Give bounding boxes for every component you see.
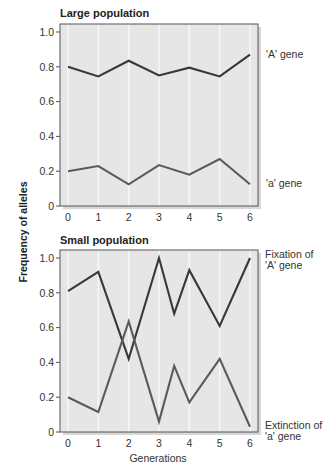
x-tick-label: 4 — [186, 211, 192, 223]
x-tick-label: 2 — [126, 437, 132, 449]
y-axis-label: Frequency of alleles — [17, 181, 29, 282]
y-tick-label: 1.0 — [39, 252, 54, 264]
x-tick-label: 0 — [65, 211, 71, 223]
y-tick-label: 0 — [48, 426, 54, 438]
x-tick-label: 6 — [247, 437, 253, 449]
x-tick-label: 3 — [156, 437, 162, 449]
x-tick-label: 1 — [95, 437, 101, 449]
chart-title: Small population — [60, 234, 149, 246]
y-tick-label: 0.8 — [39, 287, 54, 299]
label-A-gene-large: 'A' gene — [266, 48, 303, 60]
label-a-gene-large: 'a' gene — [266, 177, 302, 189]
y-tick-label: 0.4 — [39, 130, 54, 142]
x-tick-label: 3 — [156, 211, 162, 223]
x-tick-label: 0 — [65, 437, 71, 449]
y-tick-label: 0.2 — [39, 391, 54, 403]
x-tick-label: 6 — [247, 211, 253, 223]
x-tick-label: 5 — [217, 211, 223, 223]
x-axis-label: Generations — [129, 452, 186, 464]
y-tick-label: 0.2 — [39, 165, 54, 177]
y-tick-label: 0.6 — [39, 321, 54, 333]
y-tick-label: 0.4 — [39, 356, 54, 368]
y-tick-label: 1.0 — [39, 26, 54, 38]
chart-large-population: Large population00.20.40.60.81.00123456 — [39, 7, 261, 223]
label-extinction-a-line2: 'a' gene — [265, 430, 301, 442]
x-tick-label: 4 — [186, 437, 192, 449]
y-tick-label: 0 — [48, 200, 54, 212]
chart-small-population: Small population00.20.40.60.81.00123456 — [39, 234, 261, 449]
label-fixation-A-line2: 'A' gene — [265, 259, 302, 271]
y-tick-label: 0.6 — [39, 95, 54, 107]
allele-frequency-figure: Large population00.20.40.60.81.00123456S… — [0, 0, 327, 470]
x-tick-label: 2 — [126, 211, 132, 223]
chart-title: Large population — [60, 7, 150, 19]
y-tick-label: 0.8 — [39, 61, 54, 73]
x-tick-label: 1 — [95, 211, 101, 223]
x-tick-label: 5 — [217, 437, 223, 449]
